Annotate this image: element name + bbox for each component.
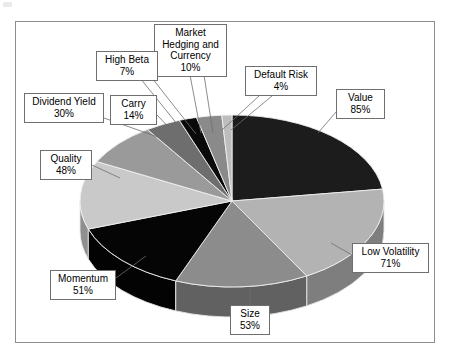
callout-label-line2: Hedging and xyxy=(159,39,222,51)
callout-label: Size xyxy=(235,308,265,320)
callout-default-risk[interactable]: Default Risk 4% xyxy=(245,66,317,96)
callout-value: 7% xyxy=(101,66,153,78)
callout-carry[interactable]: Carry 14% xyxy=(110,95,157,125)
callout-label: High Beta xyxy=(101,54,153,66)
figure-stage: Market Hedging and Currency 10% High Bet… xyxy=(0,0,454,364)
callout-label: Value xyxy=(341,92,380,104)
callout-value: 71% xyxy=(357,258,424,270)
callout-high-beta[interactable]: High Beta 7% xyxy=(96,51,158,81)
callout-label: Momentum xyxy=(55,273,111,285)
callout-value: 51% xyxy=(55,285,111,297)
callout-size[interactable]: Size 53% xyxy=(230,305,270,335)
pie-slices xyxy=(80,115,384,317)
callout-value[interactable]: Value 85% xyxy=(336,89,385,119)
callout-label: Carry xyxy=(115,98,152,110)
callout-market-hedging-and-currency[interactable]: Market Hedging and Currency 10% xyxy=(154,24,227,77)
callout-value: 53% xyxy=(235,320,265,332)
callout-label: Low Volatility xyxy=(357,246,424,258)
callout-value: 30% xyxy=(29,108,99,120)
callout-label: Default Risk xyxy=(250,69,312,81)
callout-quality[interactable]: Quality 48% xyxy=(40,150,92,180)
callout-label: Quality xyxy=(45,153,87,165)
pie-chart xyxy=(0,0,454,364)
callout-label-line3: Currency xyxy=(159,50,222,62)
callout-dividend-yield[interactable]: Dividend Yield 30% xyxy=(24,93,104,123)
callout-momentum[interactable]: Momentum 51% xyxy=(50,270,116,300)
callout-value: 85% xyxy=(341,104,380,116)
pie-slice-top[interactable] xyxy=(232,115,383,201)
callout-value: 10% xyxy=(159,62,222,74)
callout-label-line1: Market xyxy=(159,27,222,39)
callout-value: 14% xyxy=(115,110,152,122)
leader-line xyxy=(318,112,336,133)
callout-low-volatility[interactable]: Low Volatility 71% xyxy=(352,243,429,273)
callout-value: 4% xyxy=(250,81,312,93)
callout-value: 48% xyxy=(45,165,87,177)
callout-label: Dividend Yield xyxy=(29,96,99,108)
